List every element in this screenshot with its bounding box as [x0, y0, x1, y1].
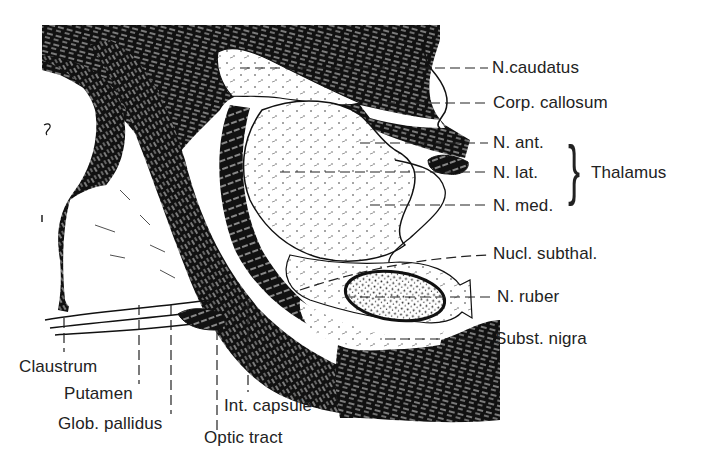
label-int-capsule: Int. capsule — [224, 396, 312, 416]
label-glob-pallidus: Glob. pallidus — [58, 414, 162, 434]
label-thalamus: Thalamus — [591, 163, 666, 183]
label-subst-nigra: Subst. nigra — [495, 329, 587, 349]
label-n-ruber: N. ruber — [497, 287, 559, 307]
thalamus-brace-icon: } — [568, 136, 580, 202]
label-n-med: N. med. — [493, 196, 553, 216]
label-claustrum: Claustrum — [19, 357, 97, 377]
anatomy-figure: N.caudatus Corp. callosum N. ant. N. lat… — [0, 0, 705, 469]
label-putamen: Putamen — [64, 384, 133, 404]
label-n-lat: N. lat. — [493, 163, 538, 183]
label-optic-tract: Optic tract — [204, 428, 283, 448]
label-n-ant: N. ant. — [493, 133, 544, 153]
label-nucl-subthal: Nucl. subthal. — [493, 244, 597, 264]
label-n-caudatus: N.caudatus — [492, 58, 579, 78]
label-corp-callosum: Corp. callosum — [493, 93, 608, 113]
